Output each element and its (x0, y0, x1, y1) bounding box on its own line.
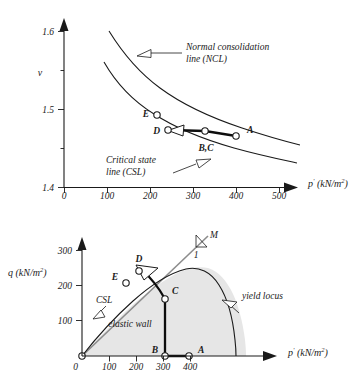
top-xtick-400: 400 (229, 191, 244, 200)
bottom-ytick-0: 0 (73, 362, 78, 372)
label-point-b-bottom: B (151, 345, 158, 355)
annotation-csl-top-line1: Critical state (106, 155, 156, 165)
bottom-ytick-300: 300 (57, 246, 73, 256)
bottom-y-axis-title-close: ) (42, 267, 47, 279)
top-y-tick-labels: 1.6 1.5 1.4 (42, 27, 54, 193)
annotation-ncl-line2: line (NCL) (186, 54, 227, 65)
top-y-axis-arrowhead (60, 18, 69, 31)
marker-point-e-top (154, 112, 160, 118)
bottom-xtick-100: 100 (102, 362, 117, 372)
label-point-a-bottom: A (197, 345, 204, 355)
bottom-x-axis-title-units: (kN/m (297, 347, 321, 359)
top-xtick-0: 0 (62, 191, 67, 200)
label-point-a-top: A (246, 125, 253, 135)
bottom-ytick-200: 200 (58, 281, 73, 291)
label-yield-locus: yield locus (241, 291, 283, 301)
top-x-axis-title-close: ) (344, 178, 349, 190)
marker-point-d-top (165, 127, 171, 133)
bottom-y-axis (76, 237, 87, 356)
label-elastic-wall: elastic wall (108, 319, 152, 329)
top-x-axis-title-units: (kN/m (317, 178, 341, 190)
marker-point-bc-top (202, 128, 208, 134)
bottom-y-tick-labels: 300 200 100 0 (57, 246, 79, 372)
top-xtick-200: 200 (143, 191, 158, 200)
annotation-csl-top: Critical state line (CSL) (106, 155, 211, 178)
bottom-x-tick-labels: 100 200 300 400 (102, 362, 198, 372)
bottom-x-axis-title: p' (kN/m2) (287, 346, 329, 359)
marker-point-a-top (233, 133, 239, 139)
bottom-y-axis-arrowhead (78, 237, 87, 250)
bottom-ytick-100: 100 (58, 316, 73, 326)
bottom-xtick-300: 300 (155, 362, 171, 372)
chart-v-vs-p: 1.6 1.5 1.4 v 0 100 200 300 400 500 (0, 0, 363, 200)
figure-root: 1.6 1.5 1.4 v 0 100 200 300 400 500 (0, 0, 363, 389)
bottom-y-axis-title: q (kN/m2) (8, 266, 47, 279)
annotation-ncl-line1: Normal consolidation (185, 42, 269, 52)
label-point-d-top: D (152, 126, 160, 136)
top-x-axis-title: p' (kN/m2) (307, 177, 349, 190)
label-point-e-bottom: E (111, 272, 118, 282)
label-point-bc-top: B,C (197, 143, 214, 153)
annotation-csl-bottom: CSL (93, 295, 112, 319)
label-slope-one: 1 (194, 250, 199, 260)
marker-point-e-bottom (123, 280, 129, 286)
top-x-tick-labels: 0 100 200 300 400 500 (62, 191, 287, 200)
bottom-x-axis-arrowhead (263, 351, 277, 361)
annotation-ncl: Normal consolidation line (NCL) (137, 42, 269, 65)
label-csl-bottom: CSL (96, 295, 112, 305)
label-point-d-bottom: D (135, 254, 143, 264)
label-point-e-top: E (142, 109, 149, 119)
top-ytick-1-6: 1.6 (42, 27, 54, 37)
top-xtick-100: 100 (100, 191, 115, 200)
top-xtick-500: 500 (272, 191, 287, 200)
bottom-xtick-400: 400 (183, 362, 198, 372)
bottom-y-axis-title-units: (kN/m (16, 267, 40, 279)
svg-text:p' (kN/m2): p' (kN/m2) (307, 177, 349, 190)
label-slope-m: M (209, 230, 219, 240)
top-ytick-1-4: 1.4 (42, 183, 54, 193)
top-ytick-1-5: 1.5 (42, 105, 54, 115)
bottom-xtick-200: 200 (129, 362, 144, 372)
chart-q-vs-p: M 1 A B C D E CSL elastic wall yield loc… (0, 200, 363, 389)
label-point-c-bottom: C (172, 286, 179, 296)
top-y-axis (58, 18, 69, 188)
top-xtick-300: 300 (185, 191, 201, 200)
top-y-axis-title: v (38, 67, 43, 78)
annotation-csl-top-line2: line (CSL) (106, 167, 145, 178)
bottom-x-axis-title-close: ) (324, 347, 329, 359)
marker-point-d-bottom (136, 268, 142, 274)
marker-point-c-bottom (162, 296, 168, 302)
